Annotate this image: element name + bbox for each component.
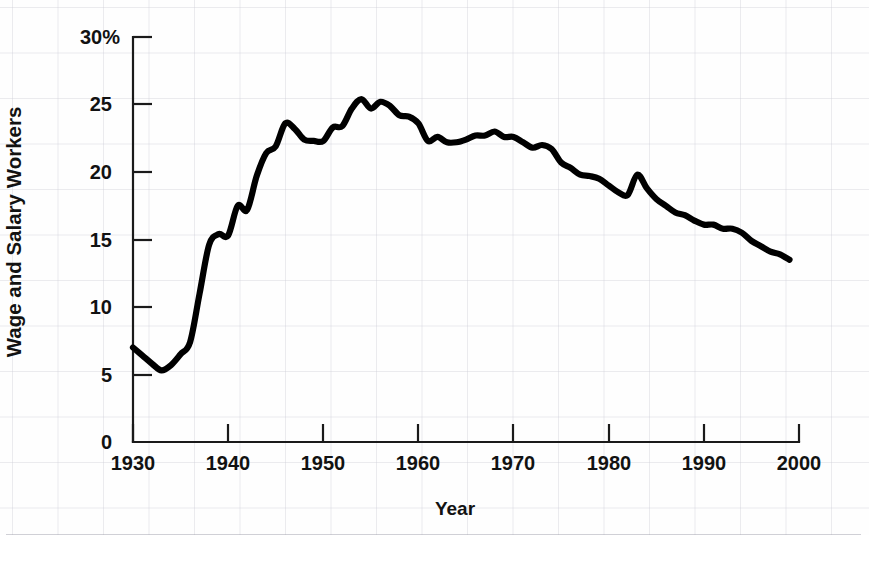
plot-area [0, 0, 869, 571]
x-tick-label-1970: 1970 [491, 452, 536, 475]
paper-bottom-margin [0, 535, 869, 571]
y-tick-label-15: 15 [62, 229, 112, 252]
x-tick-label-1980: 1980 [587, 452, 632, 475]
chart-figure: 30% 25 20 15 10 5 0 1930 1940 1950 1960 … [0, 0, 869, 571]
y-tick-label-0: 0 [62, 431, 112, 454]
x-tick-label-1960: 1960 [396, 452, 441, 475]
x-tick-label-2000: 2000 [777, 452, 822, 475]
y-tick-label-5: 5 [62, 364, 112, 387]
x-axis-ticks [133, 424, 799, 442]
y-tick-label-20: 20 [62, 161, 112, 184]
x-tick-label-1990: 1990 [682, 452, 727, 475]
y-tick-label-25: 25 [62, 93, 112, 116]
y-tick-label-10: 10 [62, 296, 112, 319]
y-tick-label-30: 30% [62, 26, 120, 49]
x-tick-label-1950: 1950 [301, 452, 346, 475]
x-tick-label-1940: 1940 [206, 452, 251, 475]
y-axis-ticks [133, 37, 152, 375]
x-axis-title: Year [435, 498, 475, 520]
data-series-line [133, 99, 789, 370]
x-tick-label-1930: 1930 [111, 452, 156, 475]
y-axis-title: Wage and Salary Workers [2, 107, 26, 358]
